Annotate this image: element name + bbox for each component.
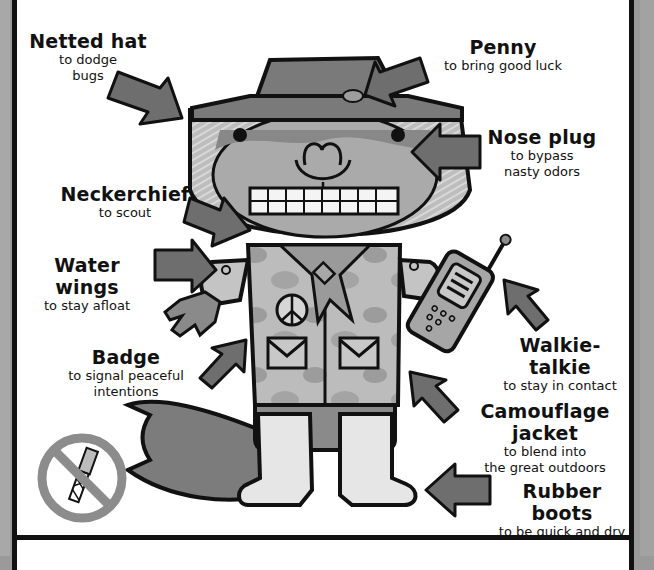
callout-title: Netted hat [28,30,148,52]
callout-rubber-boots: Rubber boots to be quick and dry [492,480,632,540]
callout-description: to stay in contact [490,378,630,394]
jacket-pocket-right [340,338,378,368]
callout-description: to bring good luck [428,58,578,74]
callout-penny: Penny to bring good luck [428,36,578,74]
callout-title: Walkie-talkie [490,334,630,378]
penny [343,90,363,102]
callout-description: bugs [28,68,148,84]
callout-description: to signal peaceful [56,368,196,384]
hat-brim [192,96,462,120]
teeth [250,188,398,214]
callout-description: to stay afloat [22,298,152,314]
callout-title: Camouflage jacket [460,400,630,444]
callout-netted-hat: Netted hat to dodge bugs [28,30,148,84]
arrow-walkie-talkie [504,280,548,330]
right-eye [391,128,405,142]
callout-description: to be quick and dry [492,524,632,540]
callout-description: the great outdoors [460,460,630,476]
callout-nose-plug: Nose plug to bypass nasty odors [482,126,602,180]
callout-description: intentions [56,384,196,400]
callout-title: Penny [428,36,578,58]
callout-description: to dodge [28,52,148,68]
callout-camouflage-jacket: Camouflage jacket to blend into the grea… [460,400,630,476]
callout-description: to scout [60,205,190,221]
left-eye [233,128,247,142]
peace-badge [277,295,307,325]
callout-description: nasty odors [482,164,602,180]
callout-title: Badge [56,346,196,368]
arrow-camouflage-jacket [410,372,458,422]
callout-title: Rubber boots [492,480,632,524]
jacket-pocket-left [268,338,306,368]
callout-walkie-talkie: Walkie-talkie to stay in contact [490,334,630,394]
left-hand [165,292,220,336]
callout-neckerchief: Neckerchief to scout [60,183,190,221]
arrow-badge [200,340,246,388]
callout-water-wings: Water wings to stay afloat [22,254,152,314]
callout-title: Water wings [22,254,152,298]
callout-title: Nose plug [482,126,602,148]
callout-description: to bypass [482,148,602,164]
callout-badge: Badge to signal peaceful intentions [56,346,196,400]
callout-title: Neckerchief [60,183,190,205]
no-pocketknife-icon [42,438,122,518]
callout-description: to blend into [460,444,630,460]
right-boot [340,414,416,505]
